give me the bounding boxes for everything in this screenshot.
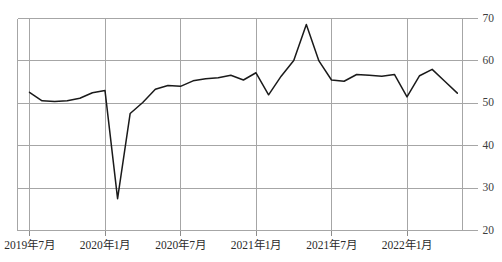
x-axis-tick-label: 2019年7月 [4, 238, 55, 251]
x-axis-tick-label: 2020年7月 [155, 238, 206, 251]
x-axis-tick-label: 2020年1月 [80, 238, 131, 251]
line-chart-figure: 203040506070 2019年7月2020年1月2020年7月2021年1… [0, 0, 502, 262]
x-axis-tick-marks [18, 231, 463, 236]
chart-canvas: 203040506070 2019年7月2020年1月2020年7月2021年1… [0, 0, 502, 262]
y-axis-tick-label: 20 [483, 224, 495, 236]
y-axis-tick-labels: 203040506070 [483, 12, 495, 236]
vertical-gridlines [18, 19, 463, 231]
data-series-line [30, 24, 458, 198]
x-axis-tick-label: 2022年1月 [382, 238, 433, 251]
y-axis-tick-label: 60 [483, 54, 495, 66]
x-axis-tick-labels: 2019年7月2020年1月2020年7月2021年1月2021年7月2022年… [4, 238, 432, 251]
horizontal-gridlines [18, 19, 463, 231]
x-axis-tick-label: 2021年7月 [306, 238, 357, 251]
x-axis-tick-label: 2021年1月 [231, 238, 282, 251]
y-axis-tick-label: 70 [483, 12, 495, 24]
y-axis-tick-label: 50 [483, 96, 495, 108]
y-axis-tick-stubs [463, 19, 478, 231]
y-axis-tick-label: 30 [483, 181, 495, 193]
y-axis-tick-label: 40 [483, 139, 495, 151]
